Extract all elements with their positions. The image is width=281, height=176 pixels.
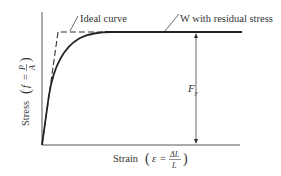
svg-text:L: L	[171, 161, 177, 170]
svg-text:P: P	[18, 65, 27, 71]
ideal-curve-leader	[70, 16, 78, 31]
svg-text:ΔL: ΔL	[169, 150, 180, 159]
ideal-curve	[42, 32, 110, 145]
svg-text:(: (	[145, 151, 150, 167]
svg-text:(: (	[18, 89, 34, 94]
fy-arrow-bottom-icon	[194, 139, 198, 144]
svg-text:=: =	[160, 153, 166, 164]
svg-text:): )	[183, 151, 188, 167]
residual-stress-curve	[42, 32, 112, 145]
svg-text:=: =	[20, 74, 31, 80]
fy-label: Fy	[187, 82, 199, 97]
residual-stress-label: W with residual stress	[180, 13, 273, 24]
svg-text:ε: ε	[152, 153, 157, 164]
svg-text:Stress: Stress	[20, 101, 31, 126]
svg-text:): )	[18, 57, 34, 62]
stress-strain-diagram: Ideal curve W with residual stress Fy St…	[0, 0, 281, 176]
y-axis-label: Stress ( f = P A )	[18, 57, 37, 126]
x-axis-label: Strain ( ε = ΔL L )	[113, 150, 188, 170]
svg-text:Strain: Strain	[113, 153, 139, 164]
fy-arrow-top-icon	[194, 33, 198, 38]
svg-text:A: A	[28, 65, 37, 71]
svg-text:f: f	[20, 83, 31, 88]
ideal-curve-label: Ideal curve	[80, 13, 127, 24]
residual-leader	[165, 14, 179, 31]
